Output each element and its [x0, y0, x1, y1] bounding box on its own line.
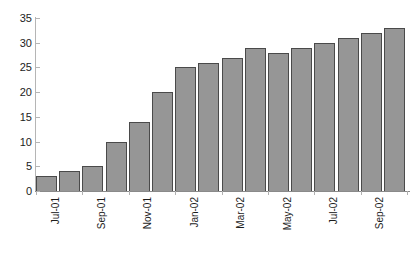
- x-axis-tick-mark: [175, 191, 176, 195]
- bar[interactable]: [291, 48, 312, 191]
- y-axis-tick-label: 25: [4, 62, 32, 73]
- bar[interactable]: [314, 43, 335, 191]
- x-axis-tick-mark: [82, 191, 83, 195]
- bar-chart: 05101520253035 Jul-01Sep-01Nov-01Jan-02M…: [0, 0, 410, 254]
- bar-slot: [106, 18, 127, 191]
- x-axis-tick-label: Sep-01: [97, 197, 107, 229]
- y-axis-tick-label: 5: [4, 161, 32, 172]
- x-axis-tick-label: Jul-01: [51, 197, 61, 224]
- plot-area: [36, 18, 410, 191]
- bar[interactable]: [106, 142, 127, 191]
- bar-slot: [82, 18, 103, 191]
- y-axis-tick-label: 30: [4, 37, 32, 48]
- bar[interactable]: [198, 63, 219, 192]
- bar-slot: [291, 18, 312, 191]
- x-axis-tick-label: Jul-02: [329, 197, 339, 224]
- bar[interactable]: [222, 58, 243, 191]
- bar[interactable]: [384, 28, 405, 191]
- y-axis-tick-label: 0: [4, 186, 32, 197]
- x-axis-tick-mark: [129, 191, 130, 195]
- bar[interactable]: [268, 53, 289, 191]
- x-axis-tick-mark: [222, 191, 223, 195]
- bar-slot: [36, 18, 57, 191]
- x-axis-tick-label: Mar-02: [236, 197, 246, 229]
- bar[interactable]: [36, 176, 57, 191]
- x-axis-tick-mark: [407, 191, 408, 195]
- bar-slot: [198, 18, 219, 191]
- y-axis-tick-label: 35: [4, 13, 32, 24]
- x-axis-tick-label: Nov-01: [143, 197, 153, 229]
- bar-slot: [338, 18, 359, 191]
- bar-slot: [129, 18, 150, 191]
- bar[interactable]: [59, 171, 80, 191]
- bar[interactable]: [129, 122, 150, 191]
- bar[interactable]: [175, 67, 196, 191]
- bar[interactable]: [338, 38, 359, 191]
- x-axis-tick-mark: [36, 191, 37, 195]
- bar-slot: [314, 18, 335, 191]
- x-axis-tick-mark: [268, 191, 269, 195]
- y-axis-tick-label: 20: [4, 87, 32, 98]
- x-axis-tick-label: Jan-02: [190, 197, 200, 228]
- bar[interactable]: [152, 92, 173, 191]
- y-axis-tick-label: 15: [4, 111, 32, 122]
- x-axis-tick-mark: [361, 191, 362, 195]
- x-axis-tick-label: May-02: [283, 197, 293, 230]
- bar[interactable]: [245, 48, 266, 191]
- bar[interactable]: [82, 166, 103, 191]
- y-axis-labels: 05101520253035: [0, 0, 32, 254]
- bar-slot: [59, 18, 80, 191]
- bar-slot: [152, 18, 173, 191]
- bar-slot: [268, 18, 289, 191]
- y-axis-tick-label: 10: [4, 136, 32, 147]
- bar-slot: [175, 18, 196, 191]
- bar-slot: [361, 18, 382, 191]
- bar-slot: [245, 18, 266, 191]
- x-axis-tick-label: Sep-02: [375, 197, 385, 229]
- bar[interactable]: [361, 33, 382, 191]
- x-axis-tick-mark: [314, 191, 315, 195]
- bar-slot: [222, 18, 243, 191]
- bar-slot: [384, 18, 405, 191]
